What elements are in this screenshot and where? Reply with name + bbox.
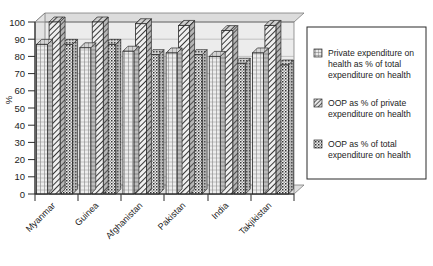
top-wall bbox=[35, 13, 304, 22]
y-tick-label: 20 bbox=[14, 154, 25, 165]
legend-label: OOP as % of total expenditure on health bbox=[328, 139, 411, 160]
y-axis-title: % bbox=[3, 95, 14, 104]
bar-side-face bbox=[245, 58, 250, 194]
bar-side-face bbox=[276, 20, 281, 194]
legend-swatch-vertical-grid bbox=[314, 49, 322, 57]
chart-container: 100 90 80 70 60 50 40 30 20 10 0 % bbox=[0, 0, 433, 266]
category-label: Guinea bbox=[73, 200, 101, 228]
y-tick-label: 10 bbox=[14, 171, 25, 182]
bar-side-face bbox=[288, 60, 293, 194]
bar-front-face bbox=[252, 53, 263, 194]
bar-side-face bbox=[60, 17, 65, 194]
legend-swatch-diagonal-hatch bbox=[314, 99, 322, 107]
x-axis bbox=[35, 194, 294, 201]
bar-side-face bbox=[233, 26, 238, 194]
bar-front-face bbox=[80, 48, 91, 194]
y-tick-label: 80 bbox=[14, 51, 25, 62]
bar bbox=[166, 48, 182, 194]
bar bbox=[209, 51, 225, 194]
bar-chart-svg: 100 90 80 70 60 50 40 30 20 10 0 % bbox=[0, 0, 433, 266]
y-tick-label: 60 bbox=[14, 85, 25, 96]
bar-side-face bbox=[91, 43, 96, 194]
bar-side-face bbox=[177, 48, 182, 194]
bar bbox=[123, 46, 139, 194]
bar bbox=[252, 48, 268, 194]
bar-side-face bbox=[103, 17, 108, 194]
bar-side-face bbox=[134, 46, 139, 194]
bar-front-face bbox=[123, 51, 134, 194]
y-tick-label: 30 bbox=[14, 137, 25, 148]
bar-side-face bbox=[202, 50, 207, 194]
bar-front-face bbox=[209, 56, 220, 194]
category-label: Pakistan bbox=[156, 200, 187, 231]
category-label: India bbox=[210, 200, 231, 221]
bar-side-face bbox=[159, 50, 164, 194]
category-labels: Myanmar Guinea Afghanistan Pakistan Indi… bbox=[24, 200, 274, 241]
y-tick-label: 0 bbox=[20, 189, 25, 200]
y-tick-label: 90 bbox=[14, 34, 25, 45]
y-tick-label: 100 bbox=[9, 17, 25, 28]
bar bbox=[37, 39, 53, 194]
category-label: Afghanistan bbox=[104, 200, 145, 241]
legend-swatch-dotted-check bbox=[314, 140, 322, 148]
bar-front-face bbox=[37, 44, 48, 194]
category-label: Myanmar bbox=[24, 200, 58, 234]
bar-front-face bbox=[166, 53, 177, 194]
bar-side-face bbox=[48, 39, 53, 194]
bar-side-face bbox=[116, 39, 121, 194]
y-tick-label: 50 bbox=[14, 103, 25, 114]
bar-side-face bbox=[146, 19, 151, 194]
legend-label: Private expenditure on health as % of to… bbox=[328, 48, 416, 80]
legend-label: OOP as % of private expenditure on healt… bbox=[328, 98, 411, 119]
y-tick-label: 70 bbox=[14, 68, 25, 79]
legend: Private expenditure on health as % of to… bbox=[307, 27, 426, 179]
bar-side-face bbox=[263, 48, 268, 194]
bar-side-face bbox=[190, 20, 195, 194]
category-label: Takjikistan bbox=[237, 200, 273, 236]
bar bbox=[80, 43, 96, 194]
bar-side-face bbox=[220, 51, 225, 194]
y-axis: 100 90 80 70 60 50 40 30 20 10 0 % bbox=[3, 17, 35, 200]
bar-side-face bbox=[73, 39, 78, 194]
y-tick-label: 40 bbox=[14, 120, 25, 131]
